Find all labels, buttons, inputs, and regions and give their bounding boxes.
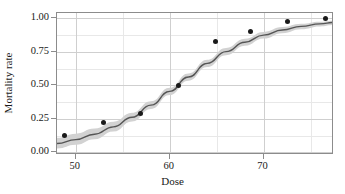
x-axis-tick-label: 60 [163,161,174,172]
data-point [101,120,106,125]
data-point [213,39,218,44]
y-axis-tick-label: 0.25 [31,113,49,124]
data-point [248,29,253,34]
chart-figure: 0.000.250.500.751.00506070 Dose Mortalit… [0,0,345,194]
data-point [62,133,67,138]
y-axis-tick [51,51,56,52]
data-point [138,111,143,116]
x-axis-tick [75,154,76,159]
y-axis-tick-label: 0.00 [31,146,49,157]
y-axis-tick-label: 0.75 [31,46,49,57]
x-axis-tick-label: 70 [257,161,268,172]
y-axis-tick [51,84,56,85]
x-axis-tick [169,154,170,159]
y-axis-tick-label: 0.50 [31,79,49,90]
data-point [323,16,328,21]
data-points [57,13,332,153]
x-axis-label: Dose [0,176,345,187]
data-point [176,83,181,88]
y-axis-label: Mortality rate [3,53,14,114]
y-axis-tick [51,118,56,119]
x-axis-tick-label: 50 [70,161,81,172]
y-axis-tick [51,17,56,18]
x-axis-tick [263,154,264,159]
y-axis-tick [51,151,56,152]
y-axis-tick-label: 1.00 [31,12,49,23]
data-point [285,19,290,24]
plot-area [56,12,333,154]
